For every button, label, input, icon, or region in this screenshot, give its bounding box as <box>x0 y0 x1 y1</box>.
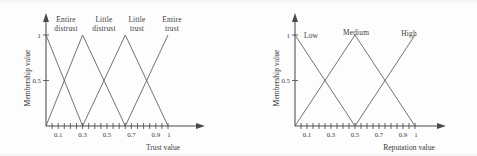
reputation-chart-svg: 1 0.5 <box>237 0 477 156</box>
trust-set-label-little-distrust: Little distrust <box>92 15 116 33</box>
trust-xtick-label-0: 0.1 <box>54 131 63 138</box>
reputation-xtick-label-2: 0.5 <box>351 131 360 138</box>
reputation-xtick-label-1: 0.3 <box>327 131 336 138</box>
reputation-x-axis-title: Reputation value <box>383 143 435 152</box>
trust-label-2-line1: Little <box>128 15 146 24</box>
trust-label-3-line2: trust <box>165 24 180 33</box>
trust-chart-svg: 1 0.5 <box>0 0 237 156</box>
reputation-xtick-label-0: 0.1 <box>303 131 312 138</box>
trust-ytick-label-1: 1 <box>38 32 41 39</box>
trust-y-axis-title: Membership value <box>23 49 32 106</box>
trust-label-2-line2: trust <box>130 24 145 33</box>
reputation-xtick-label-4: 0.9 <box>399 131 408 138</box>
trust-xtick-label-2: 0.5 <box>103 131 112 138</box>
trust-label-1-line2: distrust <box>92 24 116 33</box>
trust-set-label-entire-trust: Entire trust <box>162 15 182 33</box>
trust-mf-little-distrust <box>46 35 125 126</box>
trust-label-0-line2: distrust <box>54 24 78 33</box>
reputation-xtick-label-5: 1 <box>414 131 417 138</box>
trust-set-label-entire-distrust: Entire distrust <box>54 15 78 33</box>
chart-trust-membership: 1 0.5 <box>0 0 237 156</box>
reputation-x-axis <box>295 123 446 129</box>
trust-xtick-label-4: 0.9 <box>152 131 161 138</box>
trust-label-3-line1: Entire <box>162 15 182 24</box>
reputation-ytick-label-1: 1 <box>287 32 290 39</box>
trust-x-axis-title: Trust value <box>146 143 181 152</box>
reputation-set-label-low: Low <box>304 31 319 40</box>
trust-xtick-label-5: 1 <box>167 131 170 138</box>
reputation-xtick-label-3: 0.7 <box>375 131 384 138</box>
trust-xtick-label-1: 0.3 <box>78 131 87 138</box>
trust-mf-little-trust <box>83 35 168 126</box>
trust-label-0-line1: Entire <box>56 15 76 24</box>
figure-canvas: 1 0.5 <box>0 0 477 156</box>
trust-xtick-label-3: 0.7 <box>127 131 136 138</box>
reputation-mf-medium <box>295 35 415 126</box>
trust-ytick-label-0: 0.5 <box>33 77 42 84</box>
trust-y-axis <box>43 13 49 126</box>
reputation-ytick-label-0: 0.5 <box>282 77 291 84</box>
reputation-y-axis-title: Membership value <box>272 49 281 106</box>
trust-set-label-little-trust: Little trust <box>128 15 146 33</box>
reputation-set-label-medium: Medium <box>343 28 369 37</box>
trust-label-1-line1: Little <box>95 15 113 24</box>
reputation-y-axis <box>292 13 298 126</box>
reputation-set-label-high: High <box>401 29 417 38</box>
chart-reputation-membership: 1 0.5 <box>237 0 477 156</box>
